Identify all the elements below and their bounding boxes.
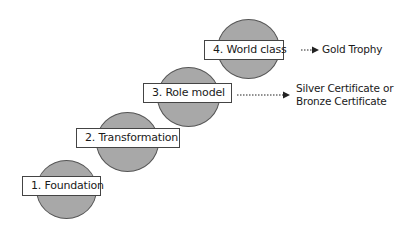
outcome-line: Bronze Certificate <box>296 95 393 108</box>
outcome-line: Silver Certificate or <box>296 82 393 95</box>
gold-arrow-icon <box>301 47 319 54</box>
silver-arrow-icon <box>237 92 290 99</box>
outcome-line: Gold Trophy <box>322 43 382 55</box>
outcome-arrows <box>0 0 399 234</box>
gold-trophy-label: Gold Trophy <box>322 43 382 56</box>
silver-bronze-label: Silver Certificate or Bronze Certificate <box>296 82 393 108</box>
